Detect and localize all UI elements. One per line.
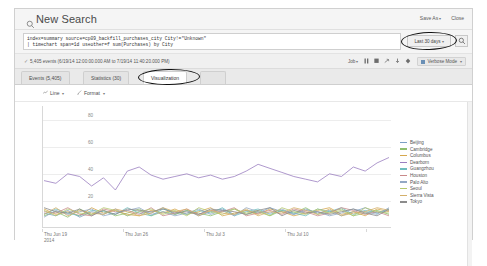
legend-item-beijing[interactable]: Beijing <box>400 140 434 145</box>
legend-item-columbus[interactable]: Columbus <box>400 153 434 158</box>
x-tick <box>42 229 43 232</box>
job-controls: Job▾ Verbose Mode <box>348 57 466 66</box>
legend-swatch-icon <box>400 168 407 169</box>
print-icon[interactable] <box>405 58 411 65</box>
x-tick <box>366 229 367 232</box>
chevron-down-icon: ▾ <box>439 16 441 21</box>
tab-events[interactable]: Events (5,405) <box>21 71 70 84</box>
event-count-status: ✓ 5,405 events (6/19/14 12:00:00.000 AM … <box>24 58 170 64</box>
chart-type-selector[interactable]: Line ▾ <box>43 90 64 96</box>
legend-swatch-icon <box>400 155 407 156</box>
legend-label: Beijing <box>410 140 424 145</box>
legend-swatch-icon <box>400 201 407 202</box>
chart-toolbar: Line ▾ Format ▾ <box>15 85 472 102</box>
download-icon[interactable] <box>395 58 400 65</box>
legend-item-cambridge[interactable]: Cambridge <box>400 147 434 152</box>
pause-icon[interactable] <box>364 58 369 65</box>
legend-label: Houston <box>410 173 427 178</box>
visualization-chart: 80 60 40 20 Thu Jun 192014 Thu Jun 26 Th… <box>15 102 472 266</box>
legend-swatch-icon <box>400 162 407 163</box>
verbose-mode-label: Verbose Mode <box>427 59 457 64</box>
legend-item-houston[interactable]: Houston <box>400 173 434 178</box>
page-title-text: New Search <box>36 13 97 25</box>
legend-item-seoul[interactable]: Seoul <box>400 186 434 191</box>
event-count-text: 5,405 events (6/19/14 12:00:00.000 AM to… <box>30 59 170 64</box>
magnifier-icon <box>458 37 466 46</box>
chart-x-axis: Thu Jun 192014 Thu Jun 26 Thu Jul 3 Thu … <box>42 229 391 251</box>
app-header: New Search Save As▾ Close <box>15 9 472 30</box>
paintbrush-icon <box>77 90 82 96</box>
line-chart-icon <box>43 90 48 96</box>
chevron-down-icon: ▾ <box>62 91 64 96</box>
legend-swatch-icon <box>400 181 407 182</box>
x-tick-label: Thu Jun 26 <box>125 232 148 238</box>
x-tick <box>204 229 205 232</box>
chart-legend: BeijingCambridgeColumbusDearbornGuangzho… <box>400 140 434 204</box>
x-tick-label: Thu Jul 3 <box>206 232 225 238</box>
legend-swatch-icon <box>400 188 407 189</box>
legend-label: Seoul <box>410 186 422 191</box>
run-search-button[interactable] <box>455 35 468 47</box>
x-tick-label: Thu Jul 10 <box>287 232 308 238</box>
legend-swatch-icon <box>400 142 407 143</box>
splunk-search-app: New Search Save As▾ Close index=summary … <box>14 8 473 240</box>
chevron-down-icon: ▾ <box>356 59 358 64</box>
legend-swatch-icon <box>400 148 407 149</box>
check-icon: ✓ <box>24 58 28 64</box>
legend-label: Cambridge <box>410 147 432 152</box>
job-menu[interactable]: Job▾ <box>348 59 358 64</box>
save-as-button[interactable]: Save As▾ <box>420 15 441 21</box>
legend-item-tokyo[interactable]: Tokyo <box>400 199 434 204</box>
chart-series-lines <box>42 106 391 228</box>
stop-icon[interactable] <box>374 58 379 65</box>
chart-format-label: Format <box>84 90 100 96</box>
legend-label: Guangzhou <box>410 166 434 171</box>
legend-label: Sierra Vista <box>410 193 434 198</box>
search-query-input[interactable]: index=summary source=cp09_backfill_purch… <box>23 33 401 50</box>
scrollbar[interactable] <box>467 102 472 266</box>
tab-visualization[interactable]: Visualization <box>143 71 187 84</box>
x-tick <box>123 229 124 232</box>
job-icon-group <box>364 58 411 65</box>
chart-format-button[interactable]: Format ▾ <box>77 90 105 96</box>
legend-item-sierra-vista[interactable]: Sierra Vista <box>400 193 434 198</box>
series-line-dearborn <box>44 158 389 191</box>
verbose-mode-selector[interactable]: Verbose Mode ▾ <box>417 57 466 66</box>
chevron-down-icon: ▾ <box>103 91 105 96</box>
tab-overflow[interactable] <box>200 71 226 84</box>
result-tabs: Events (5,405) Statistics (30) Visualiza… <box>15 69 472 85</box>
time-range-picker[interactable]: Last 30 days▾ <box>407 35 451 47</box>
legend-swatch-icon <box>400 195 407 196</box>
share-icon[interactable] <box>384 58 390 65</box>
x-tick-label: Thu Jun 192014 <box>44 232 67 244</box>
close-button[interactable]: Close <box>451 15 464 21</box>
header-actions: Save As▾ Close <box>420 15 464 21</box>
legend-item-guangzhou[interactable]: Guangzhou <box>400 166 434 171</box>
legend-item-dearborn[interactable]: Dearborn <box>400 160 434 165</box>
legend-item-palo-alto[interactable]: Palo Alto <box>400 180 434 185</box>
time-range-label: Last 30 days <box>414 39 440 44</box>
search-bar: index=summary source=cp09_backfill_purch… <box>15 30 472 53</box>
page-title: New Search <box>25 13 97 25</box>
mode-indicator-icon <box>421 60 425 64</box>
chevron-down-icon: ▾ <box>442 39 444 44</box>
query-line-2: | timechart span=1d useother=f sum(Purch… <box>27 42 397 48</box>
chart-type-label: Line <box>50 90 59 96</box>
legend-label: Palo Alto <box>410 180 428 185</box>
search-status-bar: ✓ 5,405 events (6/19/14 12:00:00.000 AM … <box>15 53 472 69</box>
legend-swatch-icon <box>400 175 407 176</box>
tab-statistics[interactable]: Statistics (30) <box>83 71 129 84</box>
legend-label: Tokyo <box>410 199 422 204</box>
chevron-down-icon: ▾ <box>460 59 462 64</box>
legend-label: Columbus <box>410 153 431 158</box>
x-tick <box>285 229 286 232</box>
legend-label: Dearborn <box>410 160 429 165</box>
